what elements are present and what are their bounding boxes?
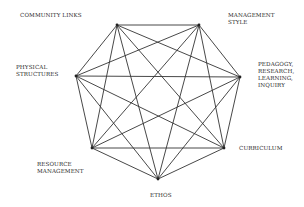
edge-ethos-resource-management xyxy=(92,148,158,179)
edge-pedagogy-physical-structures xyxy=(76,76,240,77)
edge-pedagogy-ethos xyxy=(158,77,240,179)
edge-ethos-physical-structures xyxy=(76,76,158,179)
connection-lines xyxy=(76,25,240,179)
label-community-links: COMMUNITY LINKS xyxy=(20,12,82,19)
label-resource-management: RESOURCE MANAGEMENT xyxy=(37,161,84,175)
edge-management-style-pedagogy xyxy=(199,25,240,77)
edge-pedagogy-resource-management xyxy=(92,77,240,148)
vertex-resource-management xyxy=(91,147,94,150)
vertex-physical-structures xyxy=(75,75,78,78)
edge-curriculum-physical-structures xyxy=(76,76,224,148)
label-physical-structures: PHYSICAL STRUCTURES xyxy=(16,64,58,78)
vertex-curriculum xyxy=(223,147,226,150)
edge-curriculum-ethos xyxy=(158,148,224,179)
heptagon-network-diagram xyxy=(0,0,304,207)
edge-community-links-resource-management xyxy=(92,25,117,148)
edge-resource-management-physical-structures xyxy=(76,76,92,148)
label-ethos: ETHOS xyxy=(150,192,172,199)
edge-management-style-physical-structures xyxy=(76,25,199,76)
label-curriculum: CURRICULUM xyxy=(239,145,282,152)
label-pedagogy-research-learning-inquiry: PEDAGOGY, RESEARCH, LEARNING, INQUIRY xyxy=(258,61,294,89)
vertex-community-links xyxy=(116,24,119,27)
vertex-pedagogy xyxy=(239,76,242,79)
vertex-ethos xyxy=(157,178,160,181)
vertex-management-style xyxy=(198,24,201,27)
edge-community-links-physical-structures xyxy=(76,25,117,76)
label-management-style: MANAGEMENT STYLE xyxy=(228,12,275,26)
